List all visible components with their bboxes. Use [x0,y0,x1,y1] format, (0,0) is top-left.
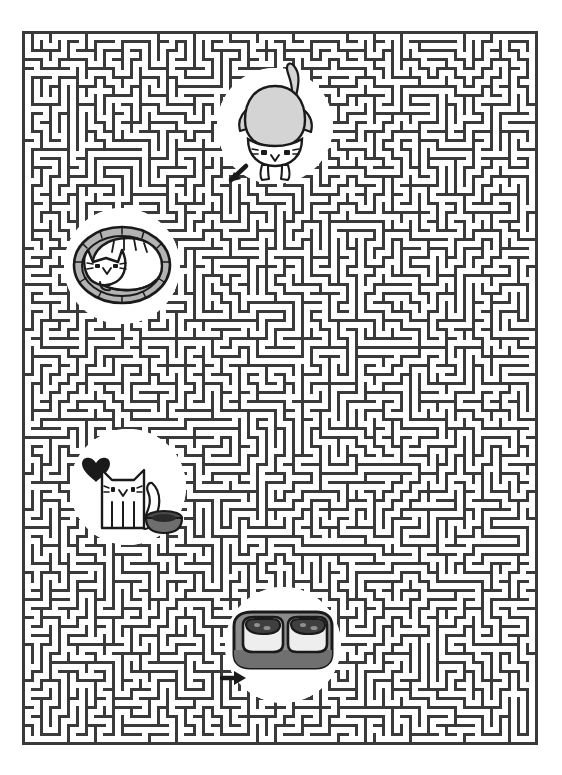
maze-grid[interactable] [0,0,562,775]
puzzle-page [0,0,562,775]
